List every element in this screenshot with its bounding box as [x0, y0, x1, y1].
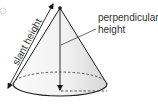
- perpendicular-height-label-line2: height: [98, 24, 125, 35]
- cone-diagram: slant height perpendicular height: [0, 0, 158, 108]
- perpendicular-height-label-line1: perpendicular: [98, 12, 158, 23]
- corner-mark: [0, 8, 6, 14]
